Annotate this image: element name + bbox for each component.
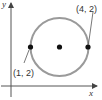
point-right <box>85 44 90 49</box>
point-label-right: (4, 2) <box>76 4 97 14</box>
coordinate-plane: y x (4, 2) (1, 2) <box>0 0 102 100</box>
point-center <box>57 44 62 49</box>
point-left <box>28 44 33 49</box>
point-label-left: (1, 2) <box>13 68 34 78</box>
x-axis-label: x <box>88 88 93 98</box>
leader-line-left <box>24 50 29 63</box>
leader-line-right <box>89 12 94 44</box>
y-axis-label: y <box>1 0 6 9</box>
